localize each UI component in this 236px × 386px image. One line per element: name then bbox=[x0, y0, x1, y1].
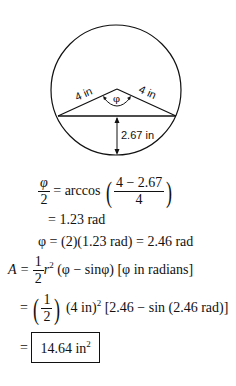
height-label: 2.67 in bbox=[121, 129, 154, 141]
area-formula-rest: (φ − sinφ) [φ in radians] bbox=[54, 262, 193, 277]
left-paren: ( bbox=[33, 294, 39, 324]
equals-sign: = bbox=[20, 300, 28, 315]
circular-segment-diagram: φ 4 in 4 in 2.67 in bbox=[0, 0, 236, 170]
result-box: 14.64 in2 bbox=[31, 332, 99, 363]
equation-area-result: = 14.64 in2 bbox=[20, 332, 100, 363]
fraction-numerator: φ bbox=[38, 176, 50, 192]
right-paren: ) bbox=[54, 294, 60, 324]
result-exponent: 2 bbox=[86, 339, 91, 349]
fraction-denominator: 2 bbox=[33, 271, 44, 286]
equation-half-angle: φ 2 = arccos ( 4 − 2.67 4 ) bbox=[38, 176, 174, 207]
angle-label: φ bbox=[113, 93, 120, 104]
fraction-denominator: 2 bbox=[38, 192, 50, 207]
fraction-one-half: 1 2 bbox=[41, 293, 52, 324]
radius-value: (4 in) bbox=[62, 300, 96, 315]
left-paren: ( bbox=[106, 177, 112, 207]
fraction-arccos-argument: 4 − 2.67 4 bbox=[114, 176, 164, 207]
fraction-phi-over-2: φ 2 bbox=[38, 176, 50, 207]
fraction-numerator: 4 − 2.67 bbox=[114, 176, 164, 192]
result-value: 14.64 in bbox=[40, 341, 86, 356]
fraction-denominator: 2 bbox=[41, 309, 52, 324]
arrow-down-icon bbox=[115, 149, 120, 155]
phi-equation-text: φ = (2)(1.23 rad) = 2.46 rad bbox=[38, 234, 193, 249]
fraction-numerator: 1 bbox=[33, 255, 44, 271]
substitution-rest: [2.46 − sin (2.46 rad)] bbox=[101, 300, 228, 315]
equation-area-formula: A = 1 2 r2 (φ − sinφ) [φ in radians] bbox=[8, 255, 193, 286]
equation-area-substitution: = ( 1 2 ) (4 in)2 [2.46 − sin (2.46 rad)… bbox=[20, 293, 228, 324]
right-paren: ) bbox=[166, 177, 172, 207]
arrow-up-icon bbox=[115, 117, 120, 123]
radius-label-left: 4 in bbox=[73, 85, 94, 103]
equals-sign: = bbox=[20, 340, 28, 355]
fraction-numerator: 1 bbox=[41, 293, 52, 309]
equation-phi-value: φ = (2)(1.23 rad) = 2.46 rad bbox=[38, 235, 193, 249]
radius-label-right: 4 in bbox=[137, 83, 158, 101]
fraction-one-half: 1 2 bbox=[33, 255, 44, 286]
arccos-operator: = arccos bbox=[53, 183, 100, 198]
equation-half-angle-result: = 1.23 rad bbox=[48, 213, 105, 227]
fraction-denominator: 4 bbox=[114, 192, 164, 207]
area-lhs: A = bbox=[8, 262, 29, 277]
